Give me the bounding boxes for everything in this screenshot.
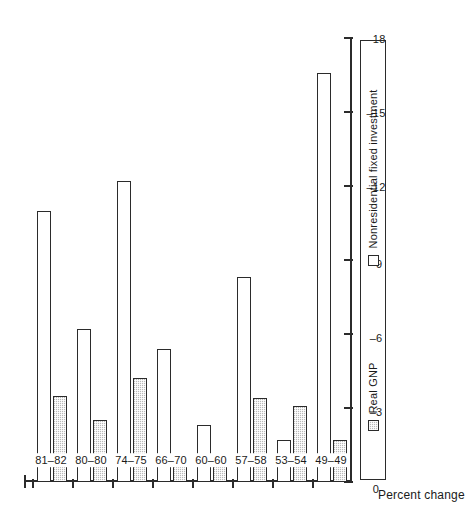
value-axis-tick-label: 0 <box>373 483 379 495</box>
bar-nonresidential-fixed-investment <box>117 181 131 482</box>
value-axis-tick <box>344 37 353 39</box>
category-axis-tick <box>72 479 74 488</box>
value-axis-tick <box>344 333 353 335</box>
bar-real-gnp <box>173 465 187 482</box>
category-axis-tick <box>152 479 154 488</box>
category-label: 80–80 <box>73 453 109 467</box>
value-axis-tick <box>344 407 353 409</box>
category-label: 57–58 <box>233 453 269 467</box>
category-axis-tick <box>272 479 274 488</box>
legend-label-real-gnp: Real GNP <box>367 362 379 413</box>
category-label: 81–82 <box>33 453 69 467</box>
category-axis-tick <box>32 479 34 488</box>
value-axis-title: Percent change <box>378 488 465 502</box>
category-label: 60–60 <box>193 453 229 467</box>
bar-real-gnp <box>93 420 107 482</box>
category-label: 49–49 <box>313 453 349 467</box>
plot-area: 0–3–6–9–12–15–1849–4953–5457–5860–6066–7… <box>32 38 352 482</box>
category-axis-tick <box>192 479 194 488</box>
bar-nonresidential-fixed-investment <box>237 277 251 482</box>
bar-real-gnp <box>293 406 307 482</box>
legend-label-nonresidential-fixed-investment: Nonresidential fixed investment <box>367 89 379 248</box>
category-label: 53–54 <box>273 453 309 467</box>
chart-legend: Real GNP Nonresidential fixed investment <box>360 40 386 480</box>
value-axis-tick <box>344 185 353 187</box>
bar-real-gnp <box>53 396 67 482</box>
category-axis-tick <box>232 479 234 488</box>
value-axis-tick <box>344 111 353 113</box>
bar-nonresidential-fixed-investment <box>37 211 51 482</box>
bar-nonresidential-fixed-investment <box>317 73 331 482</box>
value-axis-tick <box>344 259 353 261</box>
legend-item-nonresidential-fixed-investment: Nonresidential fixed investment <box>367 89 379 265</box>
bar-real-gnp <box>253 398 267 482</box>
category-axis-tick <box>312 479 314 488</box>
category-axis-end-cap <box>24 475 26 488</box>
legend-item-real-gnp: Real GNP <box>367 362 379 430</box>
category-axis-tick <box>112 479 114 488</box>
category-label: 74–75 <box>113 453 149 467</box>
legend-swatch-hatched-icon <box>368 420 379 431</box>
legend-swatch-open-icon <box>368 255 379 266</box>
category-label: 66–70 <box>153 453 189 467</box>
